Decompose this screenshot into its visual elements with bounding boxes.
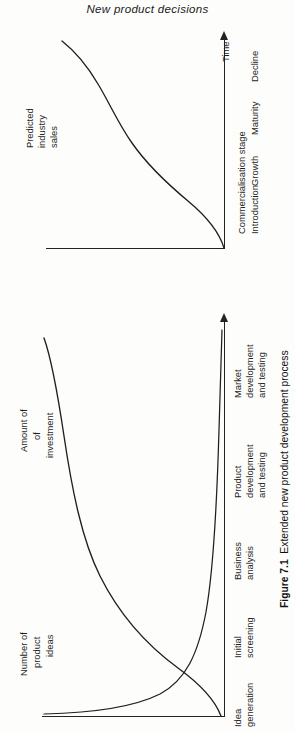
- bottom-chart-ideas-label-line-3: ideas: [44, 635, 55, 657]
- bottom-chart-stage-market-line-2: development: [244, 344, 255, 398]
- bottom-chart-stage-product-line-2: development: [244, 444, 255, 498]
- bottom-chart-stage-idea-line-2: generation: [244, 683, 255, 727]
- bottom-chart-stage-initial-line-1: Initial: [232, 636, 243, 658]
- bottom-chart-investment-label-line-1: Amount of: [18, 409, 29, 452]
- bottom-chart-investment-label-line-3: investment: [44, 413, 55, 458]
- figure-caption-text: Extended new product development process: [279, 350, 290, 553]
- amount-of-investment-curve: [44, 330, 222, 714]
- bottom-chart-stage-market-line-3: and testing: [256, 352, 267, 398]
- bottom-chart-stage-product-line-1: Product: [232, 466, 243, 498]
- bottom-chart-stage-business-line-2: analysis: [244, 546, 255, 580]
- bottom-chart-ideas-label-line-1: Number of: [18, 632, 29, 676]
- bottom-chart-investment-label-line-2: of: [31, 432, 42, 440]
- figure-page: New product decisions Time Predicted ind…: [0, 0, 295, 733]
- figure-caption: Figure 7.1 Extended new product developm…: [279, 350, 290, 608]
- bottom-chart-stage-business-line-1: Business: [232, 542, 243, 580]
- bottom-chart-stage-product-line-3: and testing: [256, 452, 267, 498]
- figure-caption-number: Figure 7.1: [279, 559, 290, 608]
- bottom-chart-stage-idea-line-1: Idea: [232, 709, 243, 727]
- bottom-chart-stage-initial-line-2: screening: [244, 617, 255, 658]
- number-of-product-ideas-curve: [44, 338, 221, 716]
- bottom-chart-ideas-label-line-2: product: [31, 637, 42, 668]
- bottom-chart-stage-market-line-1: Market: [232, 369, 243, 398]
